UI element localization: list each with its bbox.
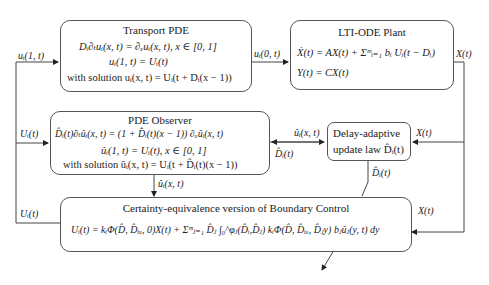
signal-x-to-control: X(t) (418, 205, 434, 216)
observer-eq2: ûᵢ(1, t) = Uᵢ(t), x ∈ [0, 1] (101, 144, 207, 156)
signal-u-obs-in: Uᵢ(t) (20, 128, 38, 139)
control-eq1: Uᵢ(t) = kᵢΦ(D̂, D̂ᵢᵤ, 0)X(t) + Σᵐⱼ₌₁ D̂ⱼ… (71, 224, 379, 235)
plant-title: LTI-ODE Plant (291, 26, 453, 38)
observer-eq3: with solution ûᵢ(x, t) = Uᵢ(t + D̂ᵢ(t)(x… (63, 159, 238, 170)
update-law-line1: Delay-adaptive (333, 127, 400, 139)
signal-u-hat-to-update: ûᵢ(x, t) (294, 127, 319, 138)
signal-u-0t: uᵢ(0, t) (254, 48, 280, 59)
boundary-control-block: Certainty-equivalence version of Boundar… (60, 197, 412, 252)
lti-ode-plant-block: LTI-ODE Plant Ẋ(t) = AX(t) + Σᵐᵢ₌₁ bᵢ Uᵢ… (290, 20, 454, 90)
signal-d-hat-to-observer: D̂ᵢ(t) (275, 148, 293, 159)
signal-u-control-out: Uᵢ(t) (20, 208, 38, 219)
pde-observer-block: PDE Observer D̂ᵢ(t)∂ₜûᵢ(x, t) = (1 + D̂̇… (50, 111, 270, 175)
signal-u-1t: uᵢ(1, t) (18, 50, 44, 61)
transport-pde-eq3: with solution uᵢ(x, t) = Uᵢ(t + Dᵢ(x − 1… (67, 72, 232, 83)
signal-u-hat-down: ûᵢ(x, t) (158, 178, 183, 189)
transport-pde-eq1: Dᵢ∂ₜuᵢ(x, t) = ∂ₓuᵢ(x, t), x ∈ [0, 1] (79, 40, 217, 52)
observer-title: PDE Observer (51, 114, 269, 126)
signal-x-to-update: X(t) (416, 127, 432, 138)
control-title: Certainty-equivalence version of Boundar… (61, 202, 411, 214)
transport-pde-title: Transport PDE (61, 24, 251, 36)
delay-adaptive-update-law-block: Delay-adaptive update law D̂ᵢ(t) (327, 122, 411, 161)
signal-x-plant-out: X(t) (456, 48, 472, 59)
plant-eq1: Ẋ(t) = AX(t) + Σᵐᵢ₌₁ bᵢ Uᵢ(t − Dᵢ) (297, 46, 435, 58)
observer-eq1: D̂ᵢ(t)∂ₜûᵢ(x, t) = (1 + D̂̇ᵢ(t)(x − 1)) … (55, 128, 223, 139)
signal-d-hat-down: D̂ᵢ(t) (372, 167, 390, 178)
update-law-line2: update law D̂ᵢ(t) (333, 143, 404, 155)
transport-pde-block: Transport PDE Dᵢ∂ₜuᵢ(x, t) = ∂ₓuᵢ(x, t),… (60, 20, 252, 92)
transport-pde-eq2: uᵢ(1, t) = Uᵢ(t) (109, 56, 168, 67)
plant-eq2: Y(t) = CX(t) (297, 67, 348, 78)
